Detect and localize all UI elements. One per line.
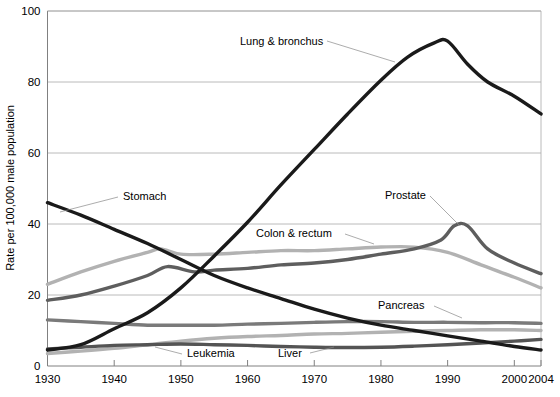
cancer-mortality-line-chart: 020406080100 193019401950196019701980199… <box>0 0 560 397</box>
x-tick-label-1980: 1980 <box>368 373 394 385</box>
y-tick-label-60: 60 <box>28 147 41 159</box>
y-tick-label-100: 100 <box>21 5 40 17</box>
series-annotation-colon-rectum: Colon & rectum <box>256 227 332 239</box>
chart-background <box>0 0 560 397</box>
y-tick-label-0: 0 <box>34 360 40 372</box>
x-tick-label-1990: 1990 <box>435 373 461 385</box>
x-tick-label-1950: 1950 <box>168 373 194 385</box>
series-annotation-lung-bronchus: Lung & bronchus <box>240 35 324 47</box>
y-tick-label-80: 80 <box>28 76 41 88</box>
x-tick-label-2004: 2004 <box>528 373 554 385</box>
x-tick-label-1940: 1940 <box>101 373 127 385</box>
series-annotation-stomach: Stomach <box>123 190 166 202</box>
series-annotation-prostate: Prostate <box>385 189 426 201</box>
series-annotation-leukemia: Leukemia <box>187 347 236 359</box>
y-tick-label-20: 20 <box>28 289 41 301</box>
series-annotation-liver: Liver <box>278 347 302 359</box>
x-tick-label-1970: 1970 <box>301 373 327 385</box>
y-tick-label-40: 40 <box>28 218 41 230</box>
chart-container: 020406080100 193019401950196019701980199… <box>0 0 560 397</box>
y-axis-title: Rate per 100,000 male population <box>4 105 16 271</box>
series-annotation-pancreas: Pancreas <box>378 299 425 311</box>
x-tick-label-1930: 1930 <box>35 373 61 385</box>
x-tick-label-2000: 2000 <box>502 373 528 385</box>
x-tick-label-1960: 1960 <box>235 373 261 385</box>
